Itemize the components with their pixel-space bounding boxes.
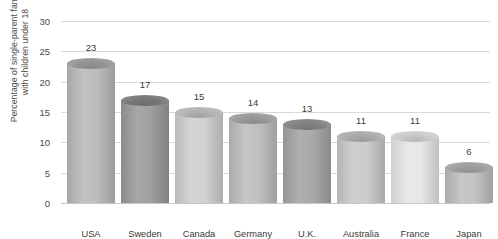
bar-japan[interactable]: 6 bbox=[445, 21, 493, 203]
y-axis-ticks: 051015202530 bbox=[0, 21, 58, 203]
bar-cylinder bbox=[67, 63, 115, 203]
bar-top-ellipse bbox=[445, 162, 493, 173]
bar-cylinder bbox=[337, 136, 385, 203]
bar-body bbox=[391, 136, 439, 203]
bar-france[interactable]: 11 bbox=[391, 21, 439, 203]
x-axis-category-label: Germany bbox=[223, 229, 283, 239]
bar-top-ellipse bbox=[121, 95, 169, 106]
bar-body bbox=[175, 112, 223, 203]
bar-value-label: 11 bbox=[337, 115, 385, 126]
bar-value-label: 15 bbox=[175, 91, 223, 102]
x-axis-category-label: Australia bbox=[331, 229, 391, 239]
x-axis-category-label: Japan bbox=[439, 229, 498, 239]
y-axis-tick-label: 0 bbox=[45, 198, 50, 209]
x-axis-category-label: U.K. bbox=[277, 229, 337, 239]
bar-cylinder bbox=[229, 118, 277, 203]
bar-value-label: 17 bbox=[121, 79, 169, 90]
x-axis-category-label: France bbox=[385, 229, 445, 239]
x-axis-category-label: Sweden bbox=[115, 229, 175, 239]
bar-cylinder bbox=[391, 136, 439, 203]
y-axis-tick-label: 30 bbox=[39, 16, 50, 27]
bar-value-label: 14 bbox=[229, 97, 277, 108]
bar-body bbox=[283, 124, 331, 203]
bar-u-k[interactable]: 13 bbox=[283, 21, 331, 203]
y-axis-tick-label: 15 bbox=[39, 107, 50, 118]
bar-top-ellipse bbox=[175, 107, 223, 118]
y-axis-tick-label: 25 bbox=[39, 46, 50, 57]
bar-value-label: 23 bbox=[67, 42, 115, 53]
bar-germany[interactable]: 14 bbox=[229, 21, 277, 203]
x-axis-category-label: Canada bbox=[169, 229, 229, 239]
bar-body bbox=[229, 118, 277, 203]
y-axis-tick-label: 5 bbox=[45, 167, 50, 178]
axis-baseline bbox=[61, 203, 490, 204]
bar-cylinder bbox=[175, 112, 223, 203]
x-axis-category-label: USA bbox=[61, 229, 121, 239]
y-axis-tick-label: 20 bbox=[39, 76, 50, 87]
bar-value-label: 13 bbox=[283, 103, 331, 114]
bar-top-ellipse bbox=[229, 113, 277, 124]
bar-australia[interactable]: 11 bbox=[337, 21, 385, 203]
bar-body bbox=[337, 136, 385, 203]
bars-group: 23USA17Sweden15Canada14Germany13U.K.11Au… bbox=[61, 21, 490, 203]
bar-usa[interactable]: 23 bbox=[67, 21, 115, 203]
bar-body bbox=[121, 100, 169, 203]
bar-sweden[interactable]: 17 bbox=[121, 21, 169, 203]
bar-cylinder bbox=[121, 100, 169, 203]
bar-canada[interactable]: 15 bbox=[175, 21, 223, 203]
bar-body bbox=[67, 63, 115, 203]
bar-cylinder bbox=[283, 124, 331, 203]
bar-value-label: 6 bbox=[445, 146, 493, 157]
bar-cylinder bbox=[445, 167, 493, 203]
bar-value-label: 11 bbox=[391, 115, 439, 126]
y-axis-tick-label: 10 bbox=[39, 137, 50, 148]
